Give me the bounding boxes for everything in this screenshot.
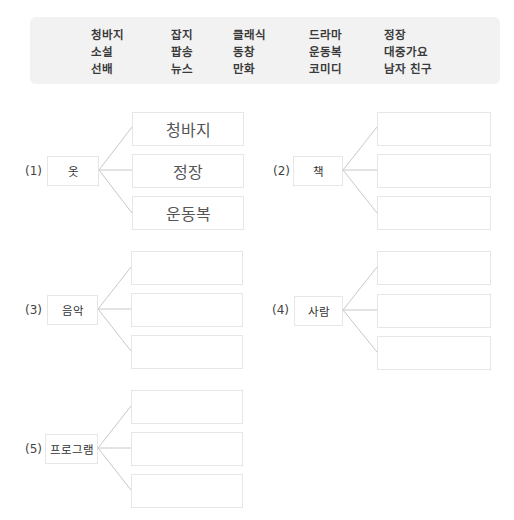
question-number: (4) [272, 303, 289, 317]
answer-box[interactable] [377, 112, 491, 146]
category-label: 옷 [68, 163, 79, 179]
answer-box[interactable] [131, 335, 243, 369]
question-number: (3) [25, 303, 42, 317]
answer-box[interactable] [377, 196, 491, 230]
category-label: 음악 [62, 302, 84, 318]
answer-box[interactable] [131, 390, 243, 424]
question-number: (1) [25, 164, 42, 178]
category-label: 사람 [308, 303, 330, 319]
answer-box[interactable] [131, 432, 243, 466]
answer-text: 운동복 [166, 201, 211, 225]
answer-box[interactable] [377, 154, 491, 188]
answer-box[interactable]: 청바지 [132, 112, 244, 146]
answer-box[interactable] [131, 251, 243, 285]
answer-box[interactable]: 정장 [132, 154, 244, 188]
category-box: 사람 [294, 296, 343, 326]
answer-box[interactable] [377, 336, 491, 370]
answer-text: 정장 [173, 159, 203, 183]
answer-box[interactable] [377, 251, 491, 285]
category-label: 책 [313, 163, 324, 179]
question-number: (2) [273, 164, 290, 178]
category-box: 음악 [47, 295, 98, 325]
answer-box[interactable] [131, 293, 243, 327]
category-box: 프로그램 [45, 434, 98, 464]
question-number: (5) [25, 442, 42, 456]
answer-text: 청바지 [166, 117, 211, 141]
answer-box[interactable] [131, 474, 243, 508]
category-box: 옷 [47, 156, 99, 186]
category-box: 책 [293, 156, 343, 186]
answer-box[interactable] [377, 294, 491, 328]
answer-box[interactable]: 운동복 [132, 196, 244, 230]
category-label: 프로그램 [50, 441, 94, 457]
